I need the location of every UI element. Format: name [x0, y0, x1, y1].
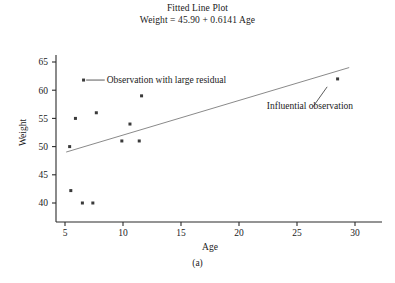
y-axis-tick-label: 50 — [39, 142, 49, 152]
data-point-marker — [140, 94, 143, 97]
data-point-marker — [95, 111, 98, 114]
y-axis-tick-label: 40 — [39, 198, 49, 208]
data-point-marker — [128, 123, 131, 126]
x-axis-tick-label: 30 — [350, 228, 360, 238]
fitted-line-plot: 40455055606551015202530AgeWeightObservat… — [0, 0, 395, 283]
x-axis-tick-label: 15 — [176, 228, 186, 238]
figure-caption: (a) — [0, 258, 395, 268]
data-point-marker — [68, 145, 71, 148]
annotation-label-large-residual: Observation with large residual — [107, 75, 227, 85]
y-axis-tick-label: 65 — [39, 57, 49, 67]
data-point-marker — [120, 139, 123, 142]
data-point-marker — [82, 79, 85, 82]
figure-panel: Fitted Line Plot Weight = 45.90 + 0.6141… — [0, 0, 395, 283]
data-point-marker — [336, 77, 339, 80]
x-axis-title: Age — [202, 242, 218, 252]
x-axis-tick-label: 5 — [63, 228, 68, 238]
y-axis-tick-label: 60 — [39, 86, 49, 96]
x-axis-tick-label: 25 — [292, 228, 302, 238]
x-axis-tick-label: 20 — [234, 228, 244, 238]
data-point-marker — [74, 117, 77, 120]
y-axis-tick-label: 45 — [39, 170, 49, 180]
data-point-marker — [81, 202, 84, 205]
y-axis-tick-label: 55 — [39, 114, 49, 124]
x-axis-tick-label: 10 — [118, 228, 128, 238]
y-axis-title: Weight — [18, 119, 28, 147]
annotation-label-influential: Influential observation — [267, 101, 354, 111]
data-point-marker — [138, 139, 141, 142]
data-point-marker — [69, 189, 72, 192]
data-point-marker — [91, 202, 94, 205]
